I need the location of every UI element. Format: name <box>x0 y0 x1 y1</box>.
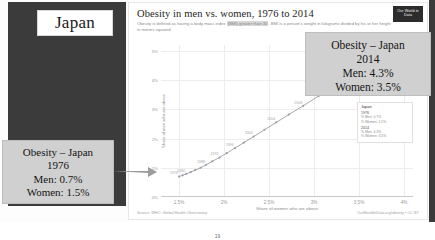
callout-2014-line3: Men: 4.3% <box>306 66 430 80</box>
x-tick-label: 1.5% <box>174 200 184 205</box>
svg-text:2008: 2008 <box>294 101 302 105</box>
callout-arrow-1976 <box>112 165 158 179</box>
chart-subtitle: Obesity is defined as having a body mass… <box>137 21 391 32</box>
our-world-in-data-logo: Our World in Data <box>393 6 423 22</box>
y-tick-label: 0% <box>152 195 158 200</box>
y-tick-label: 5% <box>152 48 158 53</box>
tooltip-country: Japan <box>361 105 409 109</box>
callout-1976-line4: Women: 1.5% <box>3 186 113 199</box>
y-axis-label: Share of men who are obese <box>161 94 166 148</box>
svg-text:1992: 1992 <box>211 152 219 156</box>
x-tick-label: 4% <box>401 200 408 205</box>
subtitle-link[interactable]: (BMI) greater than 30 <box>227 21 269 26</box>
callout-box-2014: Obesity – Japan 2014 Men: 4.3% Women: 3.… <box>305 32 431 96</box>
callout-box-1976: Obesity – Japan 1976 Men: 0.7% Women: 1.… <box>2 140 114 204</box>
tooltip-women-1976: % Women: 1.5% <box>361 120 409 124</box>
subtitle-text-1: Obesity is defined as having a body mass… <box>137 21 227 26</box>
callout-2014-line2: 2014 <box>306 52 430 66</box>
callout-2014-line1: Obesity – Japan <box>306 38 430 52</box>
country-badge: Japan <box>37 10 113 36</box>
svg-text:1988: 1988 <box>197 160 205 164</box>
source-note-right: OurWorldInData.org/obesity • CC BY <box>357 211 419 215</box>
y-tick-label: 2% <box>152 136 158 141</box>
callout-1976-line2: 1976 <box>3 159 113 172</box>
country-badge-label: Japan <box>55 13 95 33</box>
x-tick-label: 2% <box>221 200 228 205</box>
y-tick-label: 4% <box>152 78 158 83</box>
chart-title: Obesity in men vs. women, 1976 to 2014 <box>137 8 314 19</box>
tooltip-women-2014: % Women: 3.5% <box>361 134 409 138</box>
svg-text:1980: 1980 <box>177 169 185 173</box>
callout-2014-line4: Women: 3.5% <box>306 80 430 94</box>
page-strip: 19 <box>0 222 435 240</box>
x-axis-label: Share of women who are obese <box>256 206 318 211</box>
svg-text:2000: 2000 <box>245 131 253 135</box>
page-number: 19 <box>215 233 221 239</box>
callout-1976-line1: Obesity – Japan <box>3 146 113 159</box>
svg-text:1996: 1996 <box>226 143 234 147</box>
slide-canvas: Japan Our World in Data Obesity in men v… <box>0 0 435 240</box>
callout-1976-line3: Men: 0.7% <box>3 173 113 186</box>
x-tick-label: 3% <box>311 200 318 205</box>
source-note-left: Source: WHO, Global Health Observatory <box>137 211 207 215</box>
y-tick-label: 3% <box>152 107 158 112</box>
x-tick-label: 3.5% <box>354 200 364 205</box>
svg-text:2004: 2004 <box>267 117 275 121</box>
data-tooltip: Japan 1976 % Men: 0.7% % Women: 1.5% 201… <box>357 102 413 143</box>
x-tick-label: 2.5% <box>264 200 274 205</box>
